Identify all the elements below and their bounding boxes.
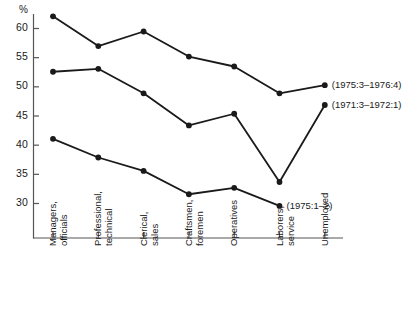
data-point-marker bbox=[141, 29, 147, 35]
series-line bbox=[53, 139, 280, 206]
category-label-line: Managers, bbox=[48, 201, 59, 246]
x-axis-category-label: Professional,technical bbox=[93, 191, 114, 246]
x-axis-category-label: Managers,officials bbox=[48, 201, 69, 246]
y-axis-tick-label: 35 bbox=[2, 167, 28, 179]
data-point-marker bbox=[95, 43, 101, 49]
data-point-marker bbox=[186, 54, 192, 60]
data-point-marker bbox=[322, 82, 328, 88]
category-label-line: foremen bbox=[194, 200, 205, 246]
data-point-marker bbox=[50, 136, 56, 142]
category-label-line: Craftsmen, bbox=[184, 200, 195, 246]
y-axis-tick-label: 30 bbox=[2, 196, 28, 208]
y-axis-tick-label: 50 bbox=[2, 79, 28, 91]
data-point-marker bbox=[322, 102, 328, 108]
y-axis-tick-label: 60 bbox=[2, 21, 28, 33]
category-label-line: service bbox=[285, 206, 296, 246]
x-axis-category-label: Laborers,service bbox=[275, 206, 296, 246]
data-point-marker bbox=[50, 13, 56, 19]
category-label-line: Clerical, bbox=[139, 212, 150, 246]
series-annotation-label: (1975:3–1976:4) bbox=[332, 79, 402, 90]
data-point-marker bbox=[277, 179, 283, 185]
x-axis-category-label: Operatives bbox=[229, 200, 240, 246]
line-chart-plot bbox=[0, 0, 410, 321]
data-point-marker bbox=[277, 90, 283, 96]
series-annotation-label: (1971:3–1972:1) bbox=[332, 99, 402, 110]
category-label-line: Operatives bbox=[229, 200, 240, 246]
x-axis-category-label: Craftsmen,foremen bbox=[184, 200, 205, 246]
data-point-marker bbox=[50, 69, 56, 75]
data-point-marker bbox=[231, 185, 237, 191]
data-point-marker bbox=[186, 123, 192, 129]
data-point-marker bbox=[141, 168, 147, 174]
y-axis-tick-label: 40 bbox=[2, 138, 28, 150]
data-point-marker bbox=[231, 64, 237, 70]
data-point-marker bbox=[95, 155, 101, 161]
category-label-line: officials bbox=[59, 201, 70, 246]
data-point-marker bbox=[186, 191, 192, 197]
y-axis-ticks bbox=[34, 29, 40, 204]
category-label-line: Laborers, bbox=[275, 206, 286, 246]
data-series-layer bbox=[50, 13, 328, 208]
chart-container: % 30354045505560 Managers,officialsProfe… bbox=[0, 0, 410, 321]
data-point-marker bbox=[231, 111, 237, 117]
data-point-marker bbox=[95, 66, 101, 72]
x-axis-category-label: Clerical,sales bbox=[139, 212, 160, 246]
category-label-line: technical bbox=[104, 191, 115, 246]
series-annotation-label: (1975:1–2) bbox=[287, 200, 333, 211]
y-axis-tick-label: 55 bbox=[2, 50, 28, 62]
category-label-line: sales bbox=[149, 212, 160, 246]
y-axis-tick-label: 45 bbox=[2, 109, 28, 121]
data-point-marker bbox=[141, 90, 147, 96]
y-axis-unit-label: % bbox=[19, 4, 28, 15]
